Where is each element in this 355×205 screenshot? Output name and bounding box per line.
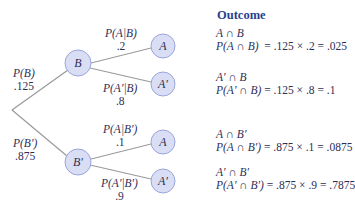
branch-b-aprime [90, 68, 151, 82]
outcome-a-and-b: A ∩ B P(A ∩ B) = .125 × .2 = .025 [216, 27, 347, 53]
node-aprime-label: A′ [157, 77, 168, 91]
outcome-aprime-and-b: A′ ∩ B P(A′ ∩ B) = .125 × .8 = .1 [216, 71, 335, 97]
label-p-b: P(B) .125 [13, 67, 35, 93]
node-a-label: A [158, 135, 167, 149]
outcome-header: Outcome [217, 8, 266, 23]
node-b-label: B [74, 56, 82, 70]
label-p-a-given-b: P(A|B) .2 [105, 27, 137, 53]
label-p-aprime-given-bprime: P(A′|B′) .9 [101, 177, 138, 203]
outcome-aprime-and-bprime: A′ ∩ B′ P(A′ ∩ B′) = .875 × .9 = .7875 [216, 166, 355, 192]
node-a-label: A [158, 39, 167, 53]
outcome-a-and-bprime: A ∩ B′ P(A ∩ B′) = .875 × .1 = .0875 [216, 128, 352, 154]
label-p-aprime-given-b: P(A′|B) .8 [103, 82, 137, 108]
node-bprime-label: B′ [73, 155, 83, 169]
label-p-bprime: P(B′) .875 [13, 137, 37, 163]
label-p-a-given-bprime: P(A|B′) .1 [103, 123, 137, 149]
node-aprime-label: A′ [157, 174, 168, 188]
